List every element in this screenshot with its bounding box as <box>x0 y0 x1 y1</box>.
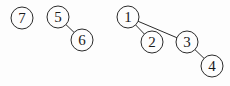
node-label: 1 <box>124 9 132 25</box>
node-7: 7 <box>11 7 33 29</box>
node-6: 6 <box>71 29 93 51</box>
node-5: 5 <box>47 6 69 28</box>
node-label: 4 <box>208 58 216 74</box>
node-label: 5 <box>54 9 62 25</box>
node-label: 6 <box>78 32 86 48</box>
node-label: 3 <box>183 34 191 50</box>
node-1: 1 <box>117 6 139 28</box>
node-label: 7 <box>18 10 26 26</box>
tree-diagram: 7 5 6 1 2 3 4 <box>0 0 230 86</box>
node-3: 3 <box>176 31 198 53</box>
node-label: 2 <box>148 34 156 50</box>
node-4: 4 <box>201 55 223 77</box>
node-2: 2 <box>141 31 163 53</box>
